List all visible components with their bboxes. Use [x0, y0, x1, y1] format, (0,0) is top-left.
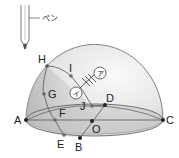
label-f: F	[59, 107, 66, 119]
point-e	[62, 133, 66, 137]
pen-icon	[21, 5, 40, 49]
marker-i: イ	[70, 87, 82, 99]
point-f	[53, 118, 57, 122]
label-a: A	[14, 114, 22, 126]
point-b	[78, 136, 82, 140]
svg-text:イ: イ	[73, 90, 80, 98]
point-i	[69, 74, 73, 78]
pen-label: ペン	[42, 14, 58, 23]
point-j	[90, 104, 94, 108]
label-h: H	[38, 53, 46, 65]
point-a	[24, 118, 28, 122]
label-i: I	[69, 62, 72, 74]
hemisphere-diagram: ア イ A C O B D E F G H I J ペン	[0, 0, 179, 158]
marker-a: ア	[94, 67, 106, 79]
label-c: C	[166, 114, 174, 126]
point-c	[161, 118, 165, 122]
label-g: G	[48, 88, 57, 100]
label-d: D	[106, 92, 114, 104]
label-b: B	[75, 141, 82, 153]
label-e: E	[57, 138, 64, 150]
point-g	[42, 92, 46, 96]
label-j: J	[80, 100, 86, 112]
svg-text:ア: ア	[97, 70, 104, 78]
label-o: O	[92, 123, 101, 135]
